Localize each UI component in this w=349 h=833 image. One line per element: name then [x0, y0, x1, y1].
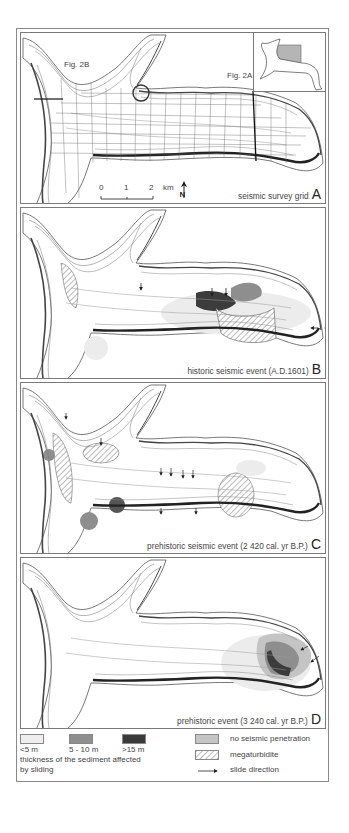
slide-direction-arrow-icon — [197, 767, 221, 775]
panel-a-caption-text: seismic survey grid — [238, 191, 309, 201]
legend-label-slide-direction: slide direction — [230, 765, 279, 774]
fig-2b-label: Fig. 2B — [64, 60, 89, 69]
panel-a-letter: A — [312, 187, 321, 201]
legend-label-gt15m: >15 m — [122, 745, 144, 754]
scale-bar: 0 1 2 km — [99, 183, 189, 204]
panel-c-map — [21, 383, 326, 554]
panel-a-seismic-survey-grid: Fig. 2B Fig. 2A 0 1 2 km N seismic surve… — [20, 32, 326, 204]
legend-swatch-lt5m — [20, 734, 44, 744]
panel-b-caption-text: historic seismic event (A.D.1601) — [187, 366, 308, 376]
panel-b-map — [21, 208, 326, 379]
scale-unit: km — [163, 183, 174, 192]
legend-thickness-caption-1: thickness of the sediment affected — [20, 755, 141, 764]
fig-2a-label: Fig. 2A — [227, 71, 252, 80]
location-inset-map — [253, 33, 325, 92]
panel-b-caption: historic seismic event (A.D.1601) B — [187, 362, 321, 376]
legend-label-lt5m: <5 m — [20, 745, 38, 754]
panel-d-map — [21, 558, 326, 729]
north-arrow-icon: N — [178, 180, 190, 200]
legend-thickness-caption-2: by sliding — [20, 765, 53, 774]
legend-label-megaturbidite: megaturbidite — [230, 750, 278, 759]
panel-c-caption-text: prehistoric seismic event (2 420 cal. yr… — [147, 541, 308, 551]
legend-swatch-no-seismic-penetration — [195, 734, 219, 744]
legend: <5 m 5 - 10 m >15 m thickness of the sed… — [20, 731, 326, 779]
legend-swatch-megaturbidite — [195, 750, 219, 760]
panel-c-prehistoric-seismic-event: prehistoric seismic event (2 420 cal. yr… — [20, 382, 326, 554]
panel-d-prehistoric-event: prehistoric event (3 240 cal. yr B.P.) D — [20, 557, 326, 729]
legend-label-no-seismic-penetration: no seismic penetration — [230, 734, 310, 743]
legend-swatch-5-10m — [69, 734, 93, 744]
legend-label-5-10m: 5 - 10 m — [69, 745, 98, 754]
svg-text:N: N — [180, 190, 186, 199]
panel-c-caption: prehistoric seismic event (2 420 cal. yr… — [147, 537, 321, 551]
panel-d-caption: prehistoric event (3 240 cal. yr B.P.) D — [177, 712, 321, 726]
panel-b-letter: B — [312, 362, 321, 376]
panel-d-caption-text: prehistoric event (3 240 cal. yr B.P.) — [177, 716, 308, 726]
panel-c-letter: C — [311, 537, 321, 551]
panel-a-caption: seismic survey grid A — [238, 187, 321, 201]
panel-d-letter: D — [311, 712, 321, 726]
panel-b-historic-event: historic seismic event (A.D.1601) B — [20, 207, 326, 379]
legend-swatch-gt15m — [122, 734, 146, 744]
